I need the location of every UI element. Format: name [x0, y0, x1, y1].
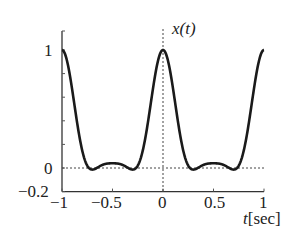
y-tick-label-neg0.2: −0.2: [18, 183, 49, 200]
x-tick-label-0.5: 0.5: [204, 194, 225, 211]
x-tick-label-0: 0: [158, 194, 167, 211]
x-tick-label-neg0.5: −0.5: [91, 194, 122, 211]
x-axis-label: t[sec]: [243, 210, 281, 227]
y-tick-label-1: 1: [44, 42, 53, 59]
axes: [62, 29, 266, 192]
curve-label: x(t): [172, 20, 196, 37]
y-tick-label-0: 0: [44, 160, 53, 177]
x-tick-label-neg1: −1: [50, 194, 68, 211]
